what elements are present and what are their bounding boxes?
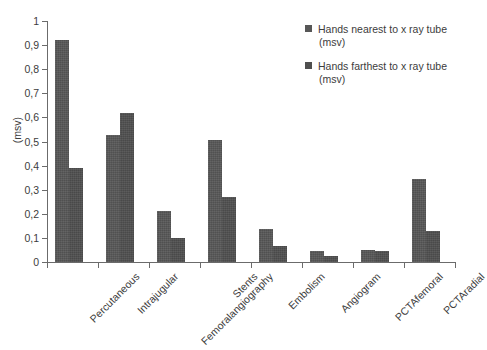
bar <box>106 135 120 262</box>
bar <box>259 229 273 262</box>
bar <box>69 168 83 262</box>
bar <box>361 250 375 262</box>
legend: Hands nearest to x ray tube (msv) Hands … <box>305 23 465 97</box>
legend-entry-series-1[interactable]: Hands nearest to x ray tube (msv) <box>305 23 465 48</box>
x-axis-tick <box>200 263 201 268</box>
x-axis-tick <box>149 263 150 268</box>
y-axis-tick-label: 0,7 <box>0 88 39 99</box>
y-axis-tick-label: 0,5 <box>0 137 39 148</box>
legend-label-series-1-unit: (msv) <box>318 36 465 49</box>
legend-swatch-series-1 <box>305 25 312 32</box>
legend-label-series-2-unit: (msv) <box>318 73 465 86</box>
x-axis-category-label: PCTAfemoral <box>393 271 445 323</box>
x-axis-tick <box>98 263 99 268</box>
bar <box>310 251 324 262</box>
bar <box>171 238 185 262</box>
x-axis-category-label: Intrajugular <box>135 271 180 316</box>
bar <box>375 251 389 262</box>
legend-entry-series-2[interactable]: Hands farthest to x ray tube (msv) <box>305 60 465 85</box>
x-axis-tick <box>302 263 303 268</box>
bar <box>120 113 134 262</box>
x-axis-tick <box>353 263 354 268</box>
bar <box>208 140 222 262</box>
y-axis-tick-label: 1 <box>0 16 39 27</box>
bar <box>324 256 338 262</box>
x-axis-tick <box>251 263 252 268</box>
x-axis-category-label: Percutaneous <box>88 271 142 325</box>
bar <box>55 40 69 262</box>
x-axis-category-label: Angiogram <box>339 271 383 315</box>
y-axis-tick-label: 0,8 <box>0 64 39 75</box>
y-axis-tick-label: 0,2 <box>0 209 39 220</box>
legend-label-series-1: Hands nearest to x ray tube <box>318 23 447 35</box>
bar <box>273 246 287 262</box>
legend-swatch-series-2 <box>305 62 312 69</box>
y-axis-tick-label: 0,1 <box>0 233 39 244</box>
y-axis-tick-label: 0,3 <box>0 185 39 196</box>
x-axis-tick <box>404 263 405 268</box>
legend-label-series-2: Hands farthest to x ray tube <box>318 60 447 72</box>
x-axis-tick <box>47 263 48 268</box>
x-axis-tick <box>455 263 456 268</box>
y-axis-title: (msv) <box>4 124 20 136</box>
bar <box>157 211 171 262</box>
x-axis-category-label: PCTAradial <box>441 271 486 316</box>
bar <box>426 231 440 262</box>
bar <box>222 197 236 262</box>
bar <box>412 179 426 262</box>
y-axis-tick-label: 0,6 <box>0 112 39 123</box>
y-axis-tick-label: 0 <box>0 257 39 268</box>
y-axis-tick-label: 0,9 <box>0 40 39 51</box>
y-axis-tick-label: 0,4 <box>0 161 39 172</box>
x-axis-category-label: Embolism <box>287 271 327 311</box>
